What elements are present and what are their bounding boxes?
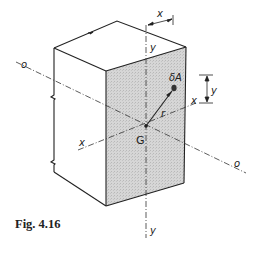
label-o-left: o <box>21 59 27 70</box>
label-centroid: G <box>136 134 145 147</box>
label-element-area: δA <box>169 72 182 83</box>
centroid-point <box>144 124 148 128</box>
label-x-left: x <box>78 137 85 148</box>
diagram-figure: o o x x y y G δA r x y Fig. 4.16 <box>0 0 258 258</box>
figure-caption: Fig. 4.16 <box>15 217 60 232</box>
label-dim-y: y <box>210 85 218 96</box>
label-y-bottom: y <box>149 225 157 236</box>
label-x-right: x <box>190 95 197 106</box>
label-o-right: o <box>234 158 240 169</box>
element-area-dot <box>171 85 176 91</box>
label-y-top: y <box>149 42 157 53</box>
label-dim-x: x <box>156 8 163 19</box>
